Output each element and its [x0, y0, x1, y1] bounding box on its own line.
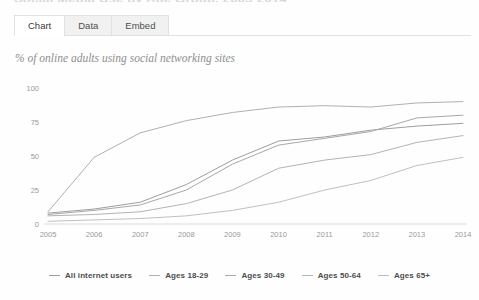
- legend-label: Ages 65+: [394, 271, 430, 280]
- legend-label: Ages 18-29: [165, 271, 208, 280]
- tab-chart[interactable]: Chart: [14, 15, 64, 36]
- y-axis-tick-label: 0: [35, 220, 39, 229]
- x-axis-tick-label: 2009: [224, 230, 241, 239]
- y-axis-tick-label: 50: [31, 152, 39, 161]
- chart-panel: Social Media Use by Age Group, 2005-2014…: [0, 0, 479, 300]
- legend-item-all-internet-users[interactable]: All internet users: [49, 271, 132, 280]
- series-line-ages-18-29: [48, 102, 463, 212]
- chart-legend: All internet usersAges 18-29Ages 30-49Ag…: [0, 264, 479, 286]
- legend-item-ages-18-29[interactable]: Ages 18-29: [149, 271, 208, 280]
- tab-bar: ChartDataEmbed: [0, 14, 479, 36]
- legend-label: Ages 50-64: [318, 271, 361, 280]
- tab-data[interactable]: Data: [64, 15, 111, 36]
- x-axis-tick-label: 2013: [409, 230, 426, 239]
- tab-label: Embed: [125, 20, 155, 31]
- y-axis-tick-label: 25: [31, 186, 39, 195]
- tab-list: ChartDataEmbed: [14, 15, 169, 36]
- x-axis-tick-label: 2008: [178, 230, 195, 239]
- page-title-cutoff: Social Media Use by Age Group, 2005-2014: [14, 0, 287, 2]
- legend-line-swatch-icon: [378, 275, 389, 276]
- x-axis-tick-label: 2007: [132, 230, 149, 239]
- x-axis-tick-label: 2005: [40, 230, 57, 239]
- legend-item-ages-50-64[interactable]: Ages 50-64: [302, 271, 361, 280]
- x-axis-tick-label: 2006: [86, 230, 103, 239]
- tab-label: Data: [78, 20, 98, 31]
- x-axis-tick-label: 2012: [362, 230, 379, 239]
- chart-subtitle: % of online adults using social networki…: [15, 52, 235, 64]
- legend-line-swatch-icon: [225, 275, 236, 276]
- x-axis-tick-label: 2010: [270, 230, 287, 239]
- series-line-ages-65: [48, 157, 463, 221]
- legend-line-swatch-icon: [149, 275, 160, 276]
- tab-label: Chart: [28, 20, 51, 31]
- legend-line-swatch-icon: [302, 275, 313, 276]
- legend-label: Ages 30-49: [241, 271, 284, 280]
- legend-line-swatch-icon: [49, 275, 60, 276]
- series-line-all-internet-users: [48, 123, 463, 213]
- y-axis-tick-label: 100: [26, 84, 39, 93]
- chart-area: 0255075100200520062007200820092010201120…: [0, 76, 479, 258]
- legend-item-ages-65-plus[interactable]: Ages 65+: [378, 271, 430, 280]
- x-axis-tick-label: 2011: [317, 230, 333, 239]
- legend-label: All internet users: [65, 271, 132, 280]
- legend-item-ages-30-49[interactable]: Ages 30-49: [225, 271, 284, 280]
- line-chart: 0255075100200520062007200820092010201120…: [0, 76, 479, 258]
- tab-embed[interactable]: Embed: [111, 15, 169, 36]
- y-axis-tick-label: 75: [31, 118, 39, 127]
- tab-bar-baseline: [14, 35, 471, 36]
- series-line-ages-50-64: [48, 136, 463, 216]
- x-axis-tick-label: 2014: [455, 230, 472, 239]
- series-line-ages-30-49: [48, 115, 463, 214]
